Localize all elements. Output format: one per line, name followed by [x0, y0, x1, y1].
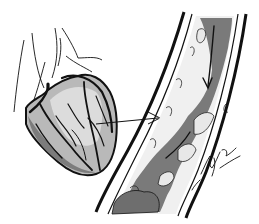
heart	[26, 75, 117, 175]
artery-cross-section	[96, 12, 246, 218]
medical-illustration	[0, 0, 259, 224]
